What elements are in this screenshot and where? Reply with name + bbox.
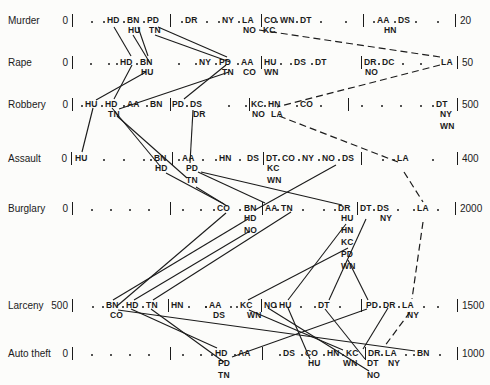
profile-line-HU (82, 108, 93, 152)
axis-min-value: 500 (38, 301, 68, 311)
city-label-DR: DR (338, 204, 351, 213)
dashed-profile-line-LA (279, 116, 398, 162)
city-label-AA: AA (182, 154, 195, 163)
city-label-DT: DT (436, 100, 448, 109)
city-sublabel-TN: TN (218, 371, 230, 380)
city-label-BN: BN (150, 100, 163, 109)
city-sublabel-HU: HU (341, 214, 354, 223)
city-label-LA: LA (385, 349, 397, 358)
profile-line-HD (131, 309, 217, 348)
city-label-AA: AA (238, 349, 251, 358)
city-label-PD: PD (366, 301, 378, 310)
city-label-DS: DS (283, 349, 295, 358)
city-sublabel-WN: WN (267, 176, 282, 185)
city-sublabel-HN: HN (341, 226, 354, 235)
major-tick (263, 152, 264, 165)
city-sublabel-NY: NY (440, 110, 452, 119)
axis-min-value: 0 (38, 204, 68, 214)
city-sublabel-TN: TN (149, 26, 161, 35)
city-label-DR: DR (368, 349, 381, 358)
major-tick (72, 56, 73, 69)
city-sublabel-LA: LA (271, 110, 283, 119)
city-label-CO: CO (305, 349, 318, 358)
axis-min-value: 0 (38, 100, 68, 110)
city-label-AA: AA (127, 100, 140, 109)
profile-line-DR (363, 308, 388, 349)
profile-line-TN (117, 116, 187, 178)
crime-rates-dotplot-figure: Murder020HDBNPDDRNYLACOWNDTAADSHUTNNOKCH… (0, 0, 490, 385)
city-label-HN: HN (219, 154, 232, 163)
city-label-CO: CO (282, 154, 295, 163)
city-label-CO: CO (300, 100, 313, 109)
city-label-DT: DT (266, 154, 278, 163)
city-label-DS: DS (294, 58, 306, 67)
city-sublabel-HU: HU (141, 68, 154, 77)
city-sublabel-WN: WN (440, 122, 455, 131)
profile-line-HU (96, 72, 146, 100)
city-label-DS: DS (377, 204, 389, 213)
city-sublabel-NY: NY (380, 214, 392, 223)
major-tick (357, 202, 358, 215)
city-label-HU: HU (85, 100, 98, 109)
city-label-HD: HD (215, 349, 228, 358)
city-sublabel-PD: PD (341, 250, 353, 259)
city-label-DS: DS (190, 100, 202, 109)
major-tick (72, 347, 73, 360)
city-label-KC: KC (240, 301, 253, 310)
city-sublabel-TN: TN (186, 176, 198, 185)
major-tick (262, 202, 263, 215)
axis-max-value: 2000 (460, 204, 482, 214)
city-label-HU: HU (279, 301, 292, 310)
city-label-LA: LA (402, 301, 414, 310)
city-label-KC: KC (346, 349, 359, 358)
major-tick (457, 347, 458, 360)
profile-line-CO (117, 213, 226, 306)
city-label-TN: TN (281, 204, 293, 213)
major-tick (170, 347, 171, 360)
city-label-CO: CO (217, 204, 230, 213)
city-label-WN: WN (280, 16, 295, 25)
city-label-CO: CO (264, 16, 277, 25)
city-sublabel-HN: HN (384, 26, 397, 35)
major-tick (361, 56, 362, 69)
axis-max-value: 500 (462, 100, 479, 110)
city-sublabel-CO: CO (243, 68, 256, 77)
city-sublabel-HD: HD (155, 164, 168, 173)
city-label-KC: KC (251, 100, 264, 109)
major-tick (72, 202, 73, 215)
axis-max-value: 1000 (462, 349, 484, 359)
dashed-profile-line-LA (412, 222, 423, 299)
city-label-DR: DR (383, 301, 396, 310)
city-label-PD: PD (147, 16, 159, 25)
city-label-BN: BN (106, 301, 119, 310)
dashed-profile-line-LA (259, 30, 440, 57)
major-tick (72, 14, 73, 27)
city-label-BN: BN (140, 58, 153, 67)
city-label-BN: BN (127, 16, 140, 25)
city-sublabel-KC: KC (263, 26, 276, 35)
axis-min-value: 0 (37, 154, 67, 164)
major-tick (168, 299, 169, 312)
city-sublabel-KC: KC (267, 164, 280, 173)
major-tick (261, 56, 262, 69)
city-sublabel-NY: NY (388, 359, 400, 368)
city-label-NY: NY (302, 154, 314, 163)
city-label-DT: DT (300, 16, 312, 25)
city-sublabel-CO: CO (110, 311, 123, 320)
city-label-HN: HN (327, 349, 340, 358)
axis-min-value: 0 (38, 16, 68, 26)
city-sublabel-KC: KC (341, 238, 354, 247)
city-label-DS: DS (398, 16, 410, 25)
category-label-rape: Rape (8, 58, 32, 68)
city-label-AA: AA (377, 16, 390, 25)
city-sublabel-PD: PD (218, 359, 230, 368)
city-label-LA: LA (441, 58, 453, 67)
profile-line-TN (153, 212, 291, 300)
city-label-DR: DR (364, 58, 377, 67)
major-tick (363, 14, 364, 27)
city-label-BN: BN (417, 349, 430, 358)
major-tick (361, 152, 362, 165)
city-label-LA: LA (417, 204, 429, 213)
axis-max-value: 1500 (462, 301, 484, 311)
city-label-HD: HD (120, 58, 133, 67)
